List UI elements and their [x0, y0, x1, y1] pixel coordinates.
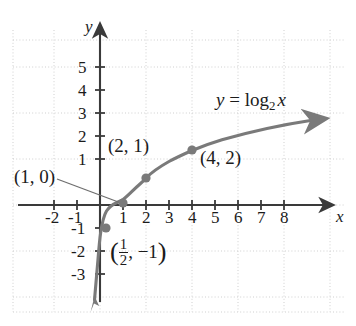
point-marker-half-neg1	[101, 223, 110, 232]
point-marker-4-2	[187, 145, 196, 154]
y-tick-label-5: 5	[78, 59, 87, 76]
equation-label: y = log2x	[216, 90, 286, 113]
equation-equals: =	[229, 89, 240, 110]
x-tick-label-6: 6	[234, 209, 243, 226]
x-tick-label-2: 2	[142, 209, 151, 226]
y-tick-label-3: 3	[78, 105, 87, 122]
x-tick-label-neg2: -2	[45, 209, 59, 226]
y-tick-label-neg3: -3	[71, 266, 85, 283]
y-tick-label-4: 4	[78, 82, 87, 99]
x-tick-label-3: 3	[165, 209, 174, 226]
x-tick-label-5: 5	[211, 209, 220, 226]
point-marker-2-1	[141, 173, 150, 182]
equation-argument: x	[277, 89, 285, 110]
equation-lhs: y	[216, 89, 224, 110]
graph-figure: 5 4 3 2 1 -1 -2 -3 -2 -1 1 2 3 4 5 6 7 8…	[0, 0, 356, 326]
x-tick-label-4: 4	[188, 209, 197, 226]
annotation-4-2: (4, 2)	[200, 148, 241, 167]
y-tick-label-1: 1	[78, 151, 87, 168]
y-tick-label-neg2: -2	[71, 243, 85, 260]
grid-horizontal	[13, 40, 344, 312]
annotation-half-close-paren: )	[158, 237, 167, 266]
annotation-1-0: (1, 0)	[14, 167, 55, 186]
x-tick-label-7: 7	[257, 209, 266, 226]
x-tick-label-neg1: -1	[68, 209, 82, 226]
point-marker-1-0	[118, 198, 127, 207]
annotation-2-1: (2, 1)	[108, 136, 149, 155]
annotation-half-tail: , −1	[128, 241, 158, 262]
y-axis-name: y	[85, 18, 93, 35]
curve-arrow-down-icon	[91, 296, 100, 312]
equation-function: log	[245, 89, 269, 110]
fraction-numerator: 1	[119, 237, 128, 253]
x-tick-label-8: 8	[280, 209, 289, 226]
annotation-half-open-paren: (	[110, 237, 119, 266]
equation-base: 2	[269, 98, 275, 113]
x-tick-label-1: 1	[119, 209, 128, 226]
graph-canvas	[0, 0, 356, 326]
fraction-one-half: 12	[119, 237, 128, 268]
leader-line-one-zero	[57, 179, 121, 203]
y-tick-label-2: 2	[78, 128, 87, 145]
fraction-denominator: 2	[119, 253, 128, 268]
x-axis-name: x	[336, 208, 344, 225]
grid-vertical	[13, 30, 330, 312]
annotation-half-neg1: (12, −1)	[110, 237, 167, 269]
